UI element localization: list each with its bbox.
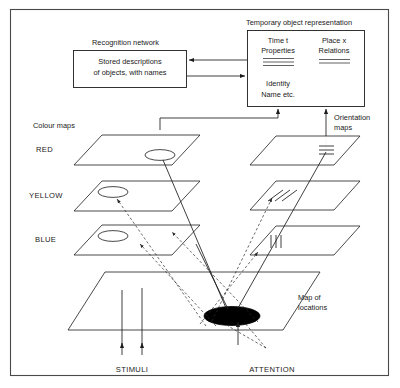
figure-root: Temporary object representation Time t P…	[0, 0, 400, 388]
orientation-plane-oblique	[250, 181, 360, 210]
temporary-relations-label: Relations	[319, 46, 350, 55]
colour-blob-yellow	[98, 187, 128, 198]
orientation-plane-horizontal	[250, 136, 360, 165]
colour-plane-yellow	[74, 181, 200, 211]
colour-maps-label: Colour maps	[33, 121, 75, 130]
orientation-maps-label-line1: Orientation	[334, 113, 370, 122]
stimuli-label: STIMULI	[116, 365, 148, 374]
temporary-identity-label: Identity	[266, 79, 290, 88]
recognition-network-line2: of objects, with names	[93, 68, 166, 77]
temporary-place-label: Place x	[322, 36, 347, 45]
orientation-plane-vertical	[250, 226, 360, 255]
orientation-maps-label-line2: maps	[334, 123, 352, 132]
recognition-network-title: Recognition network	[92, 38, 159, 47]
colour-plane-blue-label: BLUE	[35, 235, 56, 244]
colour-blob-blue	[98, 231, 128, 242]
recognition-network-line1: Stored descriptions	[98, 57, 162, 66]
temporary-object-representation-title: Temporary object representation	[246, 18, 352, 27]
map-of-locations-plane	[68, 272, 320, 330]
colour-plane-red-label: RED	[36, 145, 53, 154]
map-of-locations-label-line2: locations	[298, 303, 327, 312]
colour-plane-blue	[74, 225, 200, 255]
temporary-name-label: Name etc.	[261, 90, 295, 99]
colour-plane-yellow-label: YELLOW	[29, 191, 63, 200]
temporary-properties-label: Properties	[261, 46, 295, 55]
map-of-locations-label-line1: Map of	[298, 293, 322, 302]
arrow-colour-maps-to-temporary	[160, 109, 278, 130]
colour-blob-red	[145, 150, 175, 161]
diagram-canvas: Temporary object representation Time t P…	[0, 0, 400, 388]
colour-plane-red	[74, 135, 200, 165]
attention-label: ATTENTION	[249, 365, 295, 374]
attention-blob	[204, 307, 260, 326]
temporary-time-label: Time t	[268, 36, 288, 45]
